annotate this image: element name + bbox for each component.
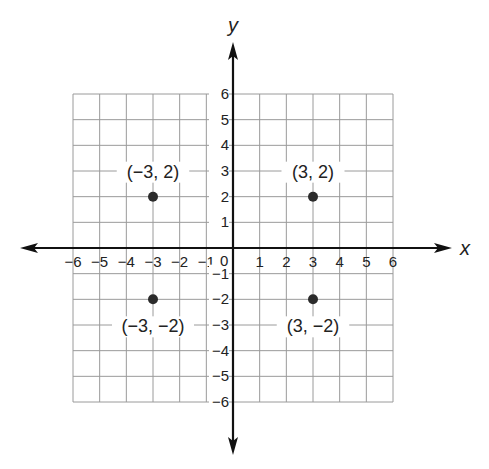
axes (20, 42, 452, 455)
y-tick-label: −5 (212, 367, 229, 384)
point-label: (3, −2) (287, 316, 340, 336)
x-tick-label: −2 (171, 253, 188, 270)
origin-label: 0 (220, 252, 228, 269)
y-tick-label: 1 (221, 213, 229, 230)
y-tick-label: −2 (212, 290, 229, 307)
y-tick-label: 2 (221, 188, 229, 205)
point-label: (3, 2) (292, 162, 334, 182)
y-tick-label: −6 (212, 393, 229, 410)
y-axis-label: y (226, 14, 239, 36)
points: (−3, 2)(3, 2)(−3, −2)(3, −2) (112, 162, 349, 338)
coordinate-plane: −6−5−4−3−2−1123456654321−1−2−3−4−5−6 (−3… (0, 0, 489, 469)
x-tick-label: 3 (309, 253, 317, 270)
y-tick-label: −3 (212, 316, 229, 333)
x-axis-label: x (459, 237, 471, 259)
x-tick-label: 6 (389, 253, 397, 270)
data-point (148, 192, 158, 202)
x-tick-label: 5 (362, 253, 370, 270)
y-tick-label: 6 (221, 85, 229, 102)
data-point (308, 294, 318, 304)
y-tick-label: 3 (221, 162, 229, 179)
x-tick-label: −5 (91, 253, 108, 270)
x-tick-label: −6 (64, 253, 81, 270)
point-label: (−3, 2) (127, 162, 180, 182)
data-point (308, 192, 318, 202)
y-tick-label: 5 (221, 111, 229, 128)
x-tick-label: −3 (144, 253, 161, 270)
x-tick-label: 4 (335, 253, 343, 270)
y-tick-label: −4 (212, 342, 229, 359)
x-tick-label: 2 (282, 253, 290, 270)
x-tick-label: 1 (255, 253, 263, 270)
point-label: (−3, −2) (121, 316, 184, 336)
data-point (148, 294, 158, 304)
y-tick-label: 4 (221, 136, 229, 153)
x-tick-label: −4 (118, 253, 135, 270)
